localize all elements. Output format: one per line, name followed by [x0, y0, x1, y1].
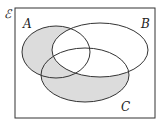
- universal-label: ℰ: [4, 7, 13, 21]
- venn-diagram: ℰ A B C: [0, 0, 163, 122]
- set-a-label: A: [22, 17, 32, 31]
- set-b-label: B: [140, 17, 150, 31]
- set-c-label: C: [121, 100, 130, 114]
